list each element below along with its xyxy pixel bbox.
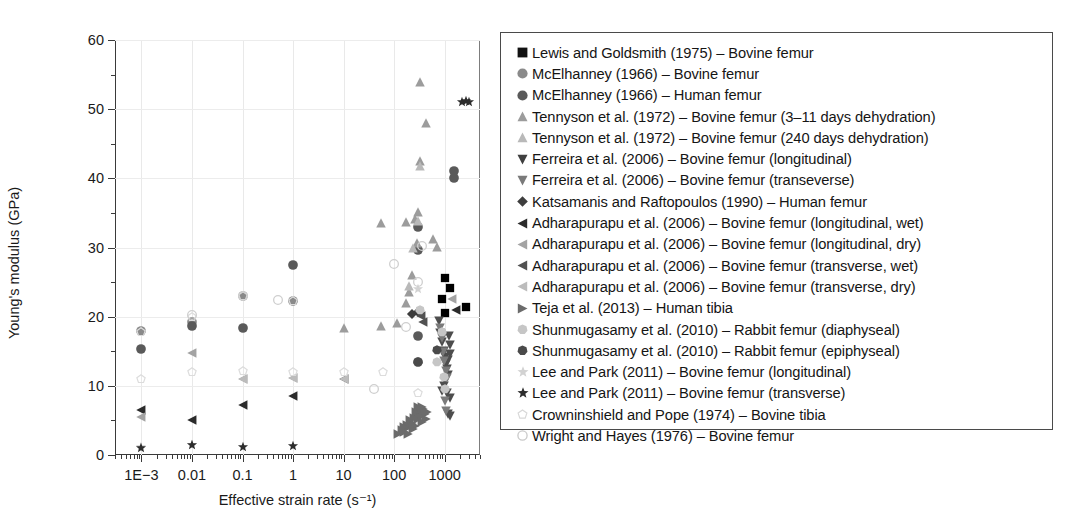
y-tick-minor [111,75,115,76]
y-tick-minor [111,144,115,145]
x-tick-minor [288,455,289,459]
x-tick-minor [480,455,481,459]
x-tick-minor [216,455,217,459]
x-tick-minor [181,455,182,459]
star-marker-icon [513,387,532,399]
x-tick-label: 1E−3 [124,467,158,483]
x-tick [293,455,294,462]
y-tick-label: 10 [88,378,104,394]
triangle-down-marker-icon [513,154,532,165]
x-tick-minor [339,455,340,459]
y-tick-label: 20 [88,309,104,325]
legend-item[interactable]: Adharapurapu et al. (2006) – Bovine femu… [513,234,1042,255]
legend-item[interactable]: Teja et al. (2013) – Human tibia [513,298,1042,319]
triangle-up-marker-icon [513,111,532,122]
x-tick-minor [429,455,430,459]
legend-item[interactable]: Lee and Park (2011) – Bovine femur (tran… [513,383,1042,404]
x-tick-minor [437,455,438,459]
legend-item-label: Katsamanis and Raftopoulos (1990) – Huma… [532,194,867,210]
y-tick-minor [111,282,115,283]
heptagon-marker-icon [513,345,532,356]
circle-open-marker-icon [513,430,532,441]
star-marker-icon [513,366,532,378]
y-tick-label: 60 [88,32,104,48]
x-tick-label: 100 [382,467,406,483]
legend-item[interactable]: Tennyson et al. (1972) – Bovine femur (3… [513,106,1042,127]
x-tick-minor [134,455,135,459]
y-tick-minor [111,420,115,421]
x-tick-minor [341,455,342,459]
gridline-horizontal [115,248,480,249]
x-tick-minor [157,455,158,459]
x-tick [445,455,446,462]
x-tick-minor [328,455,329,459]
y-tick-label: 30 [88,240,104,256]
x-tick-minor [475,455,476,459]
x-tick-minor [379,455,380,459]
x-tick-minor [386,455,387,459]
x-tick-minor [460,455,461,459]
x-tick-minor [187,455,188,459]
triangle-left-marker-icon [513,260,532,271]
x-tick-minor [359,455,360,459]
x-tick-minor [235,455,236,459]
legend-item[interactable]: Wright and Hayes (1976) – Bovine femur [513,425,1042,446]
legend-item[interactable]: Adharapurapu et al. (2006) – Bovine femu… [513,255,1042,276]
x-tick-minor [222,455,223,459]
x-tick-minor [177,455,178,459]
legend-item[interactable]: Crowninshield and Pope (1974) – Bovine t… [513,404,1042,425]
gridline-horizontal [115,40,480,41]
y-tick [108,455,115,456]
legend-item-label: Wright and Hayes (1976) – Bovine femur [532,428,794,444]
legend-item-label: Ferreira et al. (2006) – Bovine femur (t… [532,172,854,188]
x-tick-minor [190,455,191,459]
triangle-left-marker-icon [513,281,532,292]
x-tick-minor [392,455,393,459]
y-tick [108,109,115,110]
legend-item[interactable]: Tennyson et al. (1972) – Bovine femur (2… [513,127,1042,148]
y-tick [108,40,115,41]
y-tick-minor [111,351,115,352]
x-tick-minor [282,455,283,459]
x-axis-title: Effective strain rate (s⁻¹) [115,492,480,508]
legend-item[interactable]: Katsamanis and Raftopoulos (1990) – Huma… [513,191,1042,212]
x-tick-minor [368,455,369,459]
legend-item[interactable]: Ferreira et al. (2006) – Bovine femur (t… [513,170,1042,191]
legend-item-label: Tennyson et al. (1972) – Bovine femur (2… [532,130,929,146]
legend-item[interactable]: Adharapurapu et al. (2006) – Bovine femu… [513,276,1042,297]
x-tick-minor [336,455,337,459]
legend-item[interactable]: McElhanney (1966) – Human femur [513,85,1042,106]
x-tick-minor [389,455,390,459]
legend-item[interactable]: Ferreira et al. (2006) – Bovine femur (l… [513,148,1042,169]
x-tick-minor [469,455,470,459]
circle-marker-icon [513,90,532,101]
y-tick-label: 50 [88,101,104,117]
gridline-horizontal [115,317,480,318]
triangle-right-marker-icon [513,303,532,314]
triangle-up-marker-icon [513,132,532,143]
legend-item-label: McElhanney (1966) – Human femur [532,87,762,103]
x-tick [394,455,395,462]
circle-marker-icon [513,68,532,79]
legend-item[interactable]: Adharapurapu et al. (2006) – Bovine femu… [513,212,1042,233]
pentagon-open-marker-icon [513,409,532,420]
x-tick-minor [172,455,173,459]
legend-item[interactable]: Shunmugasamy et al. (2010) – Rabbit femu… [513,340,1042,361]
x-tick-label: 1000 [429,467,461,483]
x-tick-minor [374,455,375,459]
legend-item[interactable]: Shunmugasamy et al. (2010) – Rabbit femu… [513,319,1042,340]
x-tick-minor [440,455,441,459]
y-tick-minor [111,213,115,214]
heptagon-marker-icon [513,324,532,335]
x-tick-minor [238,455,239,459]
x-tick-minor [323,455,324,459]
x-tick [243,455,244,462]
legend-item[interactable]: Lewis and Goldsmith (1975) – Bovine femu… [513,42,1042,63]
legend-item-label: Adharapurapu et al. (2006) – Bovine femu… [532,258,918,274]
legend-item[interactable]: McElhanney (1966) – Bovine femur [513,63,1042,84]
x-tick-minor [126,455,127,459]
legend-item[interactable]: Lee and Park (2011) – Bovine femur (long… [513,361,1042,382]
x-tick-minor [425,455,426,459]
x-tick [141,455,142,462]
x-tick-minor [240,455,241,459]
